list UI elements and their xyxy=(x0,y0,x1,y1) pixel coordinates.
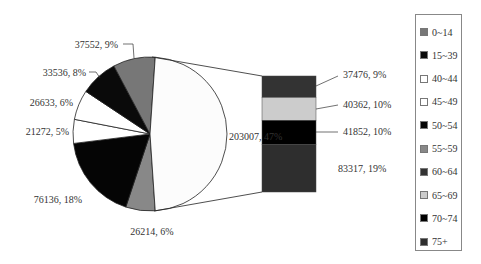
label-45-49: 21272, 5% xyxy=(26,126,69,137)
legend-swatch-icon xyxy=(420,75,428,83)
legend-swatch-icon xyxy=(420,98,428,106)
legend-label: 45~49 xyxy=(432,96,457,107)
legend-item-40~44: 40~44 xyxy=(420,73,457,85)
legend-swatch-icon xyxy=(420,51,428,59)
legend-swatch-icon xyxy=(420,145,428,153)
legend-item-0~14: 0~14 xyxy=(420,26,452,38)
bar-of-pie-chart: 37552, 9%33536, 8%26633, 6%21272, 5%7613… xyxy=(0,0,481,264)
label-60-64: 37476, 9% xyxy=(343,69,386,80)
legend-label: 0~14 xyxy=(432,27,452,38)
label-40-44: 26633, 6% xyxy=(30,97,73,108)
label-60-plus: 203007, 47% xyxy=(229,131,282,142)
legend-label: 55~59 xyxy=(432,143,457,154)
legend-item-50~54: 50~54 xyxy=(420,119,457,131)
legend-item-60~64: 60~64 xyxy=(420,166,457,178)
legend: 0~1415~3940~4445~4950~5455~5960~6465~697… xyxy=(415,14,462,251)
pie xyxy=(73,57,227,211)
pie-slice-60-plus xyxy=(150,57,227,211)
label-65-69: 40362, 10% xyxy=(343,99,391,110)
legend-item-55~59: 55~59 xyxy=(420,143,457,155)
legend-item-75+: 75+ xyxy=(420,236,448,248)
legend-swatch-icon xyxy=(420,168,428,176)
legend-label: 70~74 xyxy=(432,213,457,224)
legend-item-70~74: 70~74 xyxy=(420,212,457,224)
legend-item-65~69: 65~69 xyxy=(420,189,457,201)
bar-segment-75+ xyxy=(262,144,316,192)
bar-segment-65~69 xyxy=(262,97,316,120)
legend-label: 60~64 xyxy=(432,166,457,177)
legend-item-45~49: 45~49 xyxy=(420,96,457,108)
legend-label: 15~39 xyxy=(432,50,457,61)
legend-label: 75+ xyxy=(432,236,448,247)
label-75-plus: 83317, 19% xyxy=(338,163,386,174)
legend-label: 40~44 xyxy=(432,73,457,84)
legend-swatch-icon xyxy=(420,214,428,222)
legend-label: 50~54 xyxy=(432,120,457,131)
legend-swatch-icon xyxy=(420,28,428,36)
label-55-59: 26214, 6% xyxy=(130,226,173,237)
legend-swatch-icon xyxy=(420,191,428,199)
legend-swatch-icon xyxy=(420,238,428,246)
label-50-54: 76136, 18% xyxy=(34,194,82,205)
legend-swatch-icon xyxy=(420,121,428,129)
label-70-74: 41852, 10% xyxy=(343,126,391,137)
label-0-14: 37552, 9% xyxy=(75,39,118,50)
legend-item-15~39: 15~39 xyxy=(420,49,457,61)
label-15-39: 33536, 8% xyxy=(43,67,86,78)
legend-label: 65~69 xyxy=(432,190,457,201)
bar-segment-60~64 xyxy=(262,76,316,97)
